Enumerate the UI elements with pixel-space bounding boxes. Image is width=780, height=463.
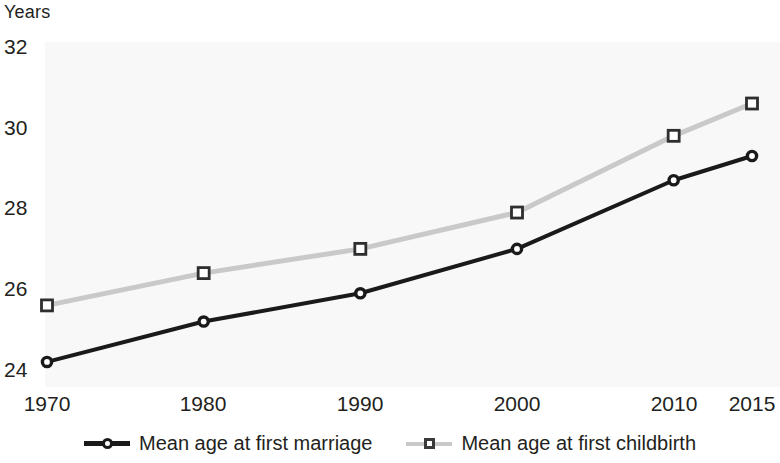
circle-marker-icon bbox=[84, 435, 130, 453]
data-point-marriage bbox=[356, 289, 365, 298]
square-marker-icon bbox=[406, 435, 452, 453]
legend-label: Mean age at first childbirth bbox=[461, 432, 696, 455]
series-layer bbox=[0, 0, 780, 463]
data-point-childbirth bbox=[512, 207, 523, 218]
data-point-marriage bbox=[199, 317, 208, 326]
series-markers-childbirth bbox=[42, 98, 758, 311]
legend-item-childbirth[interactable]: Mean age at first childbirth bbox=[406, 432, 696, 455]
legend-label: Mean age at first marriage bbox=[139, 432, 372, 455]
chart-legend: Mean age at first marriage Mean age at f… bbox=[0, 424, 780, 463]
data-point-marriage bbox=[669, 176, 678, 185]
series-line-marriage bbox=[47, 156, 752, 362]
series-line-childbirth bbox=[47, 104, 752, 306]
data-point-childbirth bbox=[747, 98, 758, 109]
data-point-marriage bbox=[42, 357, 51, 366]
data-point-childbirth bbox=[355, 243, 366, 254]
data-point-marriage bbox=[512, 244, 521, 253]
data-point-childbirth bbox=[42, 300, 53, 311]
data-point-childbirth bbox=[198, 268, 209, 279]
line-chart: Years 32 30 28 26 24 1970 1980 1990 2000… bbox=[0, 0, 780, 463]
data-point-childbirth bbox=[668, 130, 679, 141]
data-point-marriage bbox=[747, 151, 756, 160]
legend-item-marriage[interactable]: Mean age at first marriage bbox=[84, 432, 372, 455]
